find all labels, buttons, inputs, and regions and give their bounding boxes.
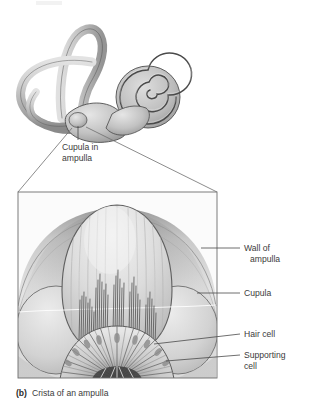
label-hair-cell: Hair cell xyxy=(244,329,275,339)
scan-artifact xyxy=(36,1,62,5)
caption-marker: (b) xyxy=(16,388,27,398)
caption-text: Crista of an ampulla xyxy=(32,388,109,398)
label-wall-of-ampulla-line1: Wall of xyxy=(244,243,271,253)
label-supporting-cell-line2: cell xyxy=(244,361,257,371)
detail-diagram-crista xyxy=(16,192,218,379)
ampulla-bulge xyxy=(69,113,87,128)
label-wall-of-ampulla-line2: ampulla xyxy=(250,254,280,264)
callout-label-line2: ampulla xyxy=(62,153,92,163)
label-supporting-cell-line1: Supporting xyxy=(244,350,286,360)
callout-label-line1: Cupula in xyxy=(62,142,99,152)
label-cupula: Cupula xyxy=(244,288,271,298)
figure-crista-of-ampulla: Cupula in ampulla xyxy=(0,0,310,409)
